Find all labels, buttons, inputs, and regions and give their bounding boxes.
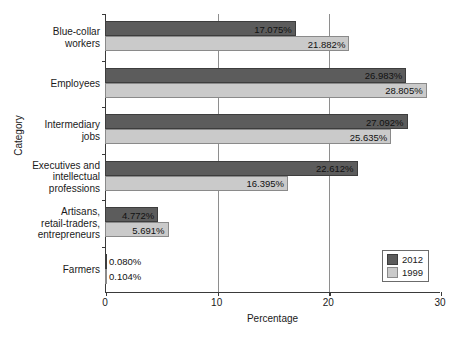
bar-line: 25.635% bbox=[105, 129, 440, 144]
y-axis-tick-label-line: jobs bbox=[0, 130, 100, 142]
y-axis-tick-label-line: retail-traders, bbox=[0, 218, 100, 230]
bar-group: 17.075%21.882% bbox=[105, 21, 440, 51]
bar[interactable]: 0.080% bbox=[105, 254, 107, 269]
bar-line: 21.882% bbox=[105, 36, 440, 51]
bar-line: 28.805% bbox=[105, 83, 440, 98]
y-axis-tick-label: Employees bbox=[0, 78, 100, 90]
gridline bbox=[329, 14, 330, 292]
y-axis-tick-label: Farmers bbox=[0, 264, 100, 276]
y-axis-tick-label-line: Blue-collar bbox=[0, 26, 100, 38]
x-axis-tick-label: 30 bbox=[434, 297, 445, 308]
bar[interactable]: 5.691% bbox=[105, 222, 169, 237]
y-axis-tick-label-line: entrepreneurs bbox=[0, 229, 100, 241]
bar-chart: Category Percentage Blue-collarworkersEm… bbox=[0, 0, 463, 338]
y-axis-tick-label-line: Executives and bbox=[0, 160, 100, 172]
y-axis-tick bbox=[102, 107, 106, 108]
bar-value-label: 22.612% bbox=[316, 163, 354, 174]
y-axis-tick-label: Artisans,retail-traders,entrepreneurs bbox=[0, 206, 100, 241]
y-axis-tick bbox=[102, 61, 106, 62]
legend-item[interactable]: 1999 bbox=[387, 267, 423, 278]
legend-swatch bbox=[387, 254, 398, 265]
y-axis-tick-label-line: Intermediary bbox=[0, 119, 100, 131]
x-axis-title: Percentage bbox=[105, 313, 440, 324]
bar-group: 22.612%16.395% bbox=[105, 161, 440, 191]
bar-line: 17.075% bbox=[105, 21, 440, 36]
bar-line: 27.092% bbox=[105, 114, 440, 129]
x-axis-tick bbox=[329, 292, 330, 296]
x-axis-tick-label: 20 bbox=[323, 297, 334, 308]
legend-label: 1999 bbox=[402, 267, 423, 278]
y-axis-tick-label-line: Artisans, bbox=[0, 206, 100, 218]
bar[interactable]: 17.075% bbox=[105, 21, 296, 36]
bar[interactable]: 27.092% bbox=[105, 114, 408, 129]
bar-group: 4.772%5.691% bbox=[105, 207, 440, 237]
x-axis-tick bbox=[441, 292, 442, 296]
bar-value-label: 28.805% bbox=[385, 85, 423, 96]
bar[interactable]: 21.882% bbox=[105, 36, 349, 51]
bar-value-label: 26.983% bbox=[365, 70, 403, 81]
bar[interactable]: 25.635% bbox=[105, 129, 391, 144]
y-axis-tick-label: Executives andintellectualprofessions bbox=[0, 160, 100, 195]
legend-label: 2012 bbox=[402, 254, 423, 265]
y-axis-tick-label-line: intellectual bbox=[0, 171, 100, 183]
bar-line: 16.395% bbox=[105, 176, 440, 191]
y-axis-tick bbox=[102, 14, 106, 15]
bar-value-label: 5.691% bbox=[132, 224, 164, 235]
bar[interactable]: 26.983% bbox=[105, 68, 406, 83]
legend: 20121999 bbox=[382, 250, 429, 282]
bar-line: 22.612% bbox=[105, 161, 440, 176]
bar-line: 4.772% bbox=[105, 207, 440, 222]
bar[interactable]: 4.772% bbox=[105, 207, 158, 222]
x-axis-tick bbox=[106, 292, 107, 296]
y-axis-tick bbox=[102, 200, 106, 201]
x-axis-tick-label: 0 bbox=[102, 297, 108, 308]
y-axis-tick bbox=[102, 154, 106, 155]
y-axis-tick-label: Blue-collarworkers bbox=[0, 26, 100, 49]
y-axis-tick-label-line: workers bbox=[0, 37, 100, 49]
bar-group: 27.092%25.635% bbox=[105, 114, 440, 144]
bar-value-label: 16.395% bbox=[247, 178, 285, 189]
bar-value-label: 17.075% bbox=[254, 23, 292, 34]
x-axis-tick bbox=[218, 292, 219, 296]
bar-value-label: 0.104% bbox=[109, 271, 141, 282]
bar[interactable]: 22.612% bbox=[105, 161, 358, 176]
y-axis-tick-label-line: Farmers bbox=[0, 264, 100, 276]
bar-group: 26.983%28.805% bbox=[105, 68, 440, 98]
bar[interactable]: 28.805% bbox=[105, 83, 427, 98]
bar-line: 5.691% bbox=[105, 222, 440, 237]
bar-value-label: 4.772% bbox=[122, 209, 154, 220]
bar-value-label: 0.080% bbox=[109, 256, 141, 267]
gridline bbox=[218, 14, 219, 292]
x-axis-tick-label: 10 bbox=[211, 297, 222, 308]
y-axis-tick-label-line: professions bbox=[0, 183, 100, 195]
bar-value-label: 27.092% bbox=[366, 116, 404, 127]
bar-line: 26.983% bbox=[105, 68, 440, 83]
legend-swatch bbox=[387, 267, 398, 278]
y-axis-tick-label: Intermediaryjobs bbox=[0, 119, 100, 142]
legend-item[interactable]: 2012 bbox=[387, 254, 423, 265]
y-axis-tick-label-line: Employees bbox=[0, 78, 100, 90]
bar-value-label: 21.882% bbox=[308, 38, 346, 49]
bar-value-label: 25.635% bbox=[350, 131, 388, 142]
bar[interactable]: 0.104% bbox=[105, 269, 107, 284]
bar[interactable]: 16.395% bbox=[105, 176, 288, 191]
y-axis-tick bbox=[102, 247, 106, 248]
